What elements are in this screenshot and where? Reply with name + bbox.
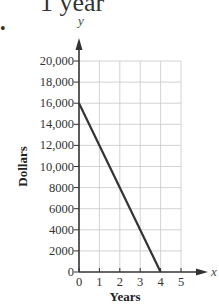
x-tick-label: 0 [76, 275, 82, 289]
x-tick-label: 2 [117, 275, 123, 289]
y-axis-var: y [76, 13, 84, 28]
y-tick-label: 6000 [49, 202, 74, 216]
y-tick-label: 12,000 [40, 138, 74, 152]
y-tick-label: 4000 [49, 223, 74, 237]
x-tick-label: 4 [157, 275, 164, 289]
line-chart: 0200040006000800010,00012,00014,00016,00… [0, 0, 219, 305]
y-axis-arrow-icon [76, 38, 83, 50]
x-tick-label: 5 [178, 275, 184, 289]
y-tick-label: 8000 [49, 181, 74, 195]
y-tick-label: 16,000 [40, 96, 74, 110]
y-tick-label: 18,000 [40, 75, 74, 89]
y-tick-label: 20,000 [40, 54, 74, 68]
y-tick-label: 0 [68, 265, 74, 279]
x-tick-label: 3 [137, 275, 143, 289]
x-axis-var: x [210, 264, 217, 279]
x-axis-arrow-icon [196, 269, 208, 276]
x-axis-title: Years [109, 289, 140, 304]
x-tick-label: 1 [96, 275, 102, 289]
y-tick-label: 2000 [49, 244, 74, 258]
y-tick-label: 14,000 [40, 117, 74, 131]
y-tick-label: 10,000 [40, 160, 74, 174]
y-axis-title: Dollars [15, 146, 30, 186]
